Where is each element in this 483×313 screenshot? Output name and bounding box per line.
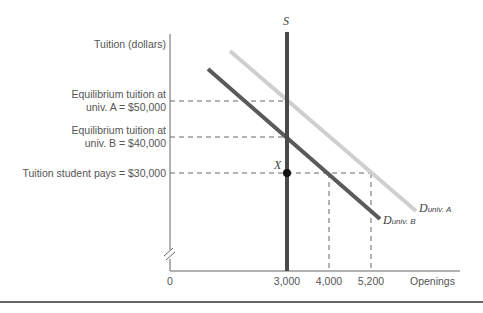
- demand-label-sub: univ. A: [428, 205, 452, 214]
- supply-label: S: [283, 14, 289, 29]
- demand-label-sub: univ. B: [392, 217, 416, 226]
- demand-univ-b-label: Duniv. B: [383, 213, 416, 228]
- point-x-marker: [283, 169, 291, 177]
- y-axis-label: Tuition (dollars): [94, 38, 166, 51]
- y-annotation-student: Tuition student pays = $30,000: [22, 167, 166, 180]
- chart-canvas: [0, 0, 483, 313]
- demand-univ-a-line: [230, 51, 416, 211]
- y-annotation-line: Equilibrium tuition at: [71, 124, 166, 137]
- demand-univ-a-label: Duniv. A: [419, 201, 451, 216]
- x-tick-5200: 5,200: [358, 275, 384, 287]
- demand-label-main: D: [383, 213, 392, 227]
- y-annotation-univ-a: Equilibrium tuition at univ. A = $50,000: [71, 88, 166, 114]
- point-x-label: X: [274, 158, 281, 173]
- x-axis-label: Openings: [410, 275, 455, 287]
- demand-label-main: D: [419, 201, 428, 215]
- y-annotation-line: univ. A = $50,000: [71, 101, 166, 114]
- y-annotation-line: univ. B = $40,000: [71, 137, 166, 150]
- y-annotation-line: Equilibrium tuition at: [71, 88, 166, 101]
- demand-univ-b-line: [208, 69, 380, 219]
- y-annotation-line: Tuition student pays = $30,000: [22, 167, 166, 180]
- x-tick-4000: 4,000: [316, 275, 342, 287]
- x-tick-3000: 3,000: [274, 275, 300, 287]
- x-tick-0: 0: [167, 275, 173, 287]
- y-annotation-univ-b: Equilibrium tuition at univ. B = $40,000: [71, 124, 166, 150]
